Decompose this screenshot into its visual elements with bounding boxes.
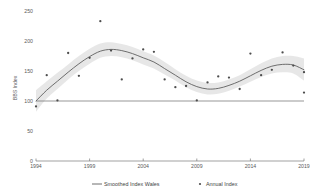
data-point xyxy=(303,71,305,73)
y-tick-label: 250 xyxy=(24,8,33,14)
y-axis-ticks: 050100150200250 xyxy=(24,8,33,164)
y-axis-title: BBS Index xyxy=(12,75,18,100)
y-axis-group: 050100150200250 BBS Index xyxy=(12,8,33,164)
x-tick-label: 1994 xyxy=(30,163,42,169)
data-point xyxy=(185,85,187,87)
legend-dot-swatch xyxy=(199,183,201,185)
data-point xyxy=(174,86,176,88)
confidence-band xyxy=(36,42,304,112)
data-point xyxy=(303,91,305,93)
data-point xyxy=(67,52,69,54)
y-tick-label: 150 xyxy=(24,68,33,74)
x-tick-label: 2014 xyxy=(245,163,257,169)
bbs-index-chart: 050100150200250 BBS Index 19941999200420… xyxy=(0,0,318,193)
data-point xyxy=(35,105,37,107)
chart-svg: 050100150200250 BBS Index 19941999200420… xyxy=(0,0,318,193)
legend-label-annual: Annual Index xyxy=(206,181,238,187)
x-tick-label: 1999 xyxy=(84,163,96,169)
confidence-band-group xyxy=(36,42,304,112)
x-tick-label: 2004 xyxy=(137,163,149,169)
y-tick-label: 100 xyxy=(24,98,33,104)
data-point xyxy=(206,81,208,83)
x-tick-label: 2019 xyxy=(298,163,310,169)
data-point xyxy=(99,20,101,22)
data-point xyxy=(142,48,144,50)
data-point xyxy=(78,75,80,77)
data-point xyxy=(281,51,283,53)
data-point xyxy=(153,51,155,53)
data-point xyxy=(46,74,48,76)
legend: Smoothed Index Wales Annual Index xyxy=(92,181,238,187)
data-point xyxy=(131,57,133,59)
data-point xyxy=(260,74,262,76)
data-point xyxy=(121,78,123,80)
y-tick-label: 50 xyxy=(27,128,33,134)
data-point xyxy=(163,78,165,80)
data-point xyxy=(56,99,58,101)
data-point xyxy=(110,49,112,51)
data-point xyxy=(239,88,241,90)
data-point xyxy=(292,64,294,66)
data-point xyxy=(196,99,198,101)
x-axis-group: 199419992004200920142019 xyxy=(30,159,310,170)
x-axis-ticks: 199419992004200920142019 xyxy=(30,159,310,170)
data-point xyxy=(249,52,251,54)
data-point xyxy=(217,75,219,77)
y-tick-label: 200 xyxy=(24,38,33,44)
x-tick-label: 2009 xyxy=(191,163,203,169)
data-point xyxy=(271,69,273,71)
legend-label-smoothed: Smoothed Index Wales xyxy=(104,181,160,187)
data-point xyxy=(228,76,230,78)
data-point xyxy=(88,57,90,59)
